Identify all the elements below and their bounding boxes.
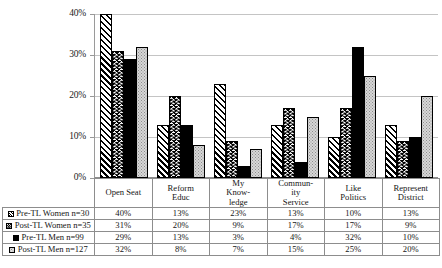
y-tick-label-40: 40%	[69, 9, 86, 19]
y-tick-label-30: 30%	[69, 50, 86, 60]
cell-value: 13%	[267, 208, 325, 220]
header-line: Open Seat	[95, 188, 152, 197]
bar-post-tl-women	[283, 108, 295, 178]
data-table: Open Seat Reform Educ My Know- ledge Com…	[2, 178, 440, 256]
chart-root: 40% 30% 20% 10% 0%	[0, 0, 442, 268]
header-line: District	[383, 193, 440, 202]
cell-value: 20%	[152, 220, 210, 232]
cell-value: 32%	[325, 232, 383, 244]
bar-post-tl-women	[340, 108, 352, 178]
bar-groups	[95, 14, 438, 178]
table-header-row: Open Seat Reform Educ My Know- ledge Com…	[3, 179, 440, 208]
column-header-like-politics: Like Politics	[325, 179, 383, 208]
cell-value: 13%	[152, 208, 210, 220]
bar-post-tl-women	[112, 51, 124, 178]
legend-swatch-icon	[9, 247, 15, 253]
plot-area: 40% 30% 20% 10% 0%	[0, 0, 442, 186]
bar-pre-tl-men	[409, 137, 421, 178]
plot-canvas	[94, 14, 437, 178]
bar-group-like-politics	[324, 14, 381, 178]
bar-group-reform-educ	[152, 14, 209, 178]
bar-pre-tl-women	[157, 125, 169, 178]
bar-pre-tl-men	[124, 59, 136, 178]
legend-swatch-icon	[6, 223, 12, 229]
cell-value: 9%	[210, 220, 268, 232]
y-tick-label-10: 10%	[69, 132, 86, 142]
header-line: Educ	[153, 193, 210, 202]
bar-pre-tl-men	[238, 166, 250, 178]
cell-value: 31%	[95, 220, 153, 232]
bar-post-tl-women	[397, 141, 409, 178]
bar-pre-tl-women	[385, 125, 397, 178]
legend-swatch-icon	[13, 235, 19, 241]
bar-post-tl-men	[364, 76, 376, 178]
legend-item-pre-tl-women: Pre-TL Women n=30	[3, 208, 95, 220]
bar-group-open-seat	[95, 14, 152, 178]
table-row: Pre-TL Men n=99 29% 13% 3% 4% 32% 10%	[3, 232, 440, 244]
legend-item-post-tl-men: Post-TL Men n=127	[3, 244, 95, 256]
column-header-reform-educ: Reform Educ	[152, 179, 210, 208]
y-tick-label-20: 20%	[69, 91, 86, 101]
column-header-represent-district: Represent District	[382, 179, 440, 208]
table-row: Post-TL Women n=35 31% 20% 9% 17% 17% 9%	[3, 220, 440, 232]
bar-pre-tl-men	[352, 47, 364, 178]
y-axis: 40% 30% 20% 10% 0%	[0, 0, 94, 186]
legend-item-pre-tl-men: Pre-TL Men n=99	[3, 232, 95, 244]
bar-post-tl-men	[307, 117, 319, 178]
bar-pre-tl-men	[181, 125, 193, 178]
bar-pre-tl-women	[328, 137, 340, 178]
cell-value: 10%	[382, 232, 440, 244]
cell-value: 32%	[95, 244, 153, 256]
cell-value: 15%	[267, 244, 325, 256]
header-corner-blank	[3, 179, 95, 208]
bar-pre-tl-men	[295, 162, 307, 178]
cell-value: 17%	[325, 220, 383, 232]
cell-value: 8%	[152, 244, 210, 256]
bar-post-tl-men	[136, 47, 148, 178]
bar-post-tl-men	[250, 149, 262, 178]
cell-value: 9%	[382, 220, 440, 232]
bar-post-tl-women	[226, 141, 238, 178]
bar-post-tl-men	[193, 145, 205, 178]
bar-group-my-knowledge	[209, 14, 266, 178]
column-header-community-service: Commun- ity Service	[267, 179, 325, 208]
legend-item-post-tl-women: Post-TL Women n=35	[3, 220, 95, 232]
legend-label: Post-TL Women n=35	[15, 220, 91, 230]
cell-value: 4%	[267, 232, 325, 244]
cell-value: 13%	[382, 208, 440, 220]
bar-post-tl-men	[421, 96, 433, 178]
cell-value: 29%	[95, 232, 153, 244]
bar-group-community-service	[267, 14, 324, 178]
cell-value: 25%	[325, 244, 383, 256]
cell-value: 13%	[152, 232, 210, 244]
bar-post-tl-women	[169, 96, 181, 178]
cell-value: 7%	[210, 244, 268, 256]
legend-label: Pre-TL Men n=99	[22, 232, 84, 242]
cell-value: 23%	[210, 208, 268, 220]
header-line: Politics	[325, 193, 382, 202]
bar-pre-tl-women	[271, 125, 283, 178]
cell-value: 3%	[210, 232, 268, 244]
column-header-my-knowledge: My Know- ledge	[210, 179, 268, 208]
column-header-open-seat: Open Seat	[95, 179, 153, 208]
bar-pre-tl-women	[100, 14, 112, 178]
cell-value: 20%	[382, 244, 440, 256]
cell-value: 40%	[95, 208, 153, 220]
bar-group-represent-district	[381, 14, 438, 178]
header-line: ledge	[210, 198, 267, 207]
cell-value: 17%	[267, 220, 325, 232]
header-line: Service	[268, 198, 325, 207]
legend-swatch-icon	[8, 211, 14, 217]
cell-value: 10%	[325, 208, 383, 220]
legend-label: Pre-TL Women n=30	[16, 208, 89, 218]
table-row: Pre-TL Women n=30 40% 13% 23% 13% 10% 13…	[3, 208, 440, 220]
legend-label: Post-TL Men n=127	[18, 244, 88, 254]
bar-pre-tl-women	[214, 84, 226, 178]
table-row: Post-TL Men n=127 32% 8% 7% 15% 25% 20%	[3, 244, 440, 256]
